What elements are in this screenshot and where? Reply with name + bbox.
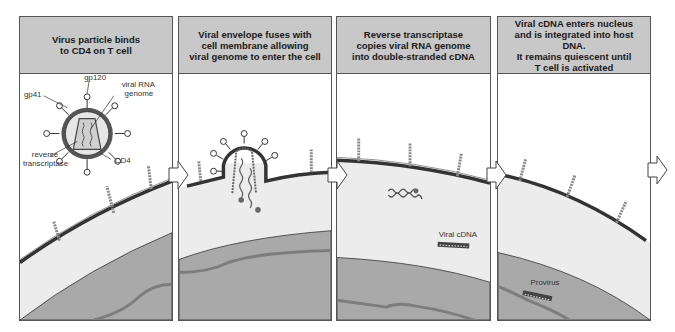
panel-caption: Reverse transcriptase copies viral RNA g… xyxy=(348,29,479,62)
label-viral-cdna: Viral cDNA xyxy=(439,230,478,239)
panel-step-4: Viral cDNA enters nucleus and is integra… xyxy=(497,16,651,321)
label-reverse: reverse xyxy=(32,150,59,159)
reverse-transcription-illustration: Viral cDNA xyxy=(337,74,490,320)
label-gp41: gp41 xyxy=(24,90,42,99)
arrow-right-icon xyxy=(647,155,669,185)
label-cd4: CD4 xyxy=(115,156,131,165)
panel-header: Viral envelope fuses with cell membrane … xyxy=(179,17,331,74)
arrow-right-icon xyxy=(486,160,508,190)
panel-caption: Viral envelope fuses with cell membrane … xyxy=(185,29,324,62)
panel-header: Viral cDNA enters nucleus and is integra… xyxy=(498,17,650,74)
panel-illustration: Provirus xyxy=(498,74,650,320)
panel-step-1: Virus particle binds to CD4 on T cell xyxy=(19,16,173,321)
panel-header: Virus particle binds to CD4 on T cell xyxy=(20,17,172,74)
panel-caption: Viral cDNA enters nucleus and is integra… xyxy=(498,18,650,73)
panel-illustration: gp120 gp41 viral RNA genome reverse tran… xyxy=(20,74,172,320)
label-provirus: Provirus xyxy=(531,278,560,287)
panel-step-3: Reverse transcriptase copies viral RNA g… xyxy=(336,16,491,321)
label-viral-rna: viral RNA xyxy=(122,80,156,89)
panel-illustration: Viral cDNA xyxy=(337,74,490,320)
label-genome: genome xyxy=(125,89,154,98)
arrow-right-icon xyxy=(168,160,190,190)
membrane-fusion-illustration xyxy=(179,74,331,320)
virus-binding-illustration: gp120 gp41 viral RNA genome reverse tran… xyxy=(20,74,172,320)
integration-illustration: Provirus xyxy=(498,74,650,320)
panel-step-2: Viral envelope fuses with cell membrane … xyxy=(178,16,332,321)
panel-caption: Virus particle binds to CD4 on T cell xyxy=(48,34,144,56)
panel-header: Reverse transcriptase copies viral RNA g… xyxy=(337,17,490,74)
arrow-right-icon xyxy=(327,160,349,190)
label-transcriptase: transcriptase xyxy=(23,159,69,168)
panel-illustration xyxy=(179,74,331,320)
label-gp120: gp120 xyxy=(84,74,107,82)
